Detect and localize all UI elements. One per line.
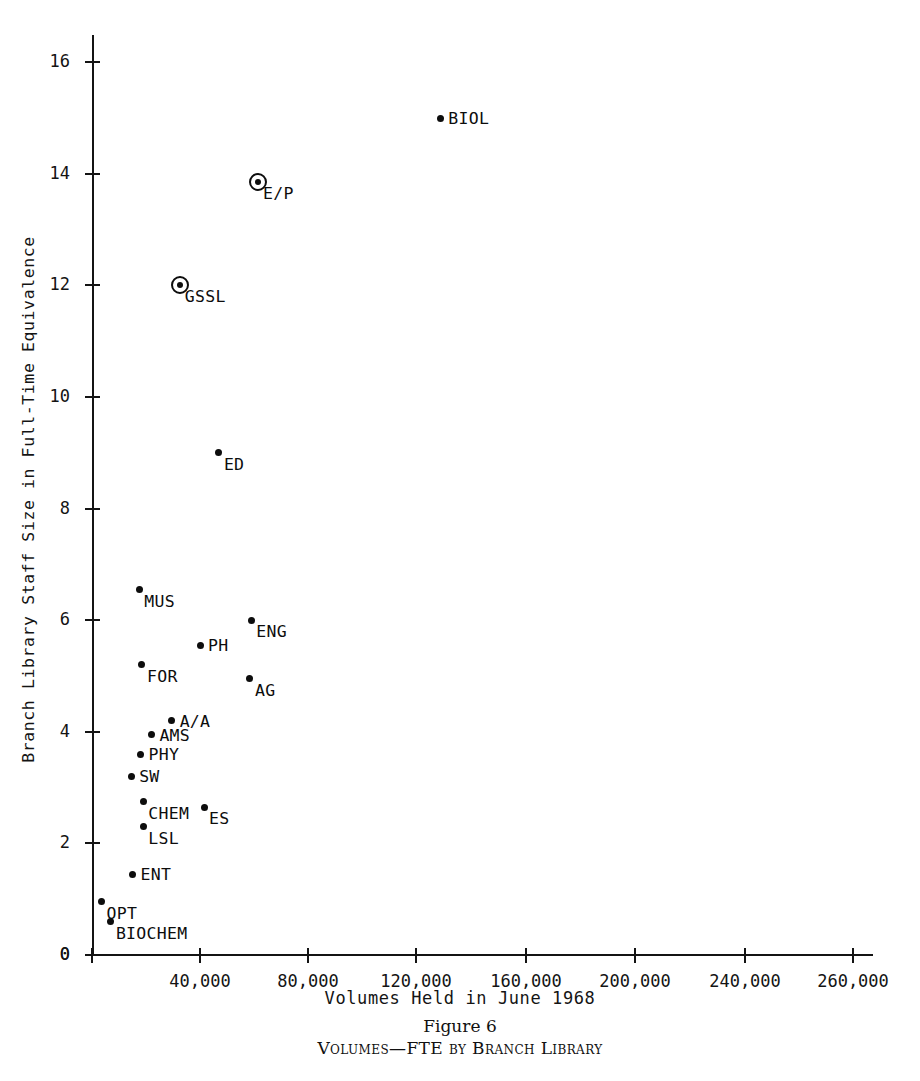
point-marker bbox=[136, 586, 143, 593]
figure-number: Figure 6 bbox=[0, 1016, 920, 1037]
scatter-plot-area: 0246810121416040,00080,000120,000160,000… bbox=[92, 35, 873, 955]
point-label: E/P bbox=[263, 186, 294, 203]
point-marker bbox=[168, 717, 175, 724]
point-label: PHY bbox=[149, 747, 180, 764]
point-marker bbox=[140, 823, 147, 830]
point-label: ED bbox=[224, 457, 244, 474]
point-label: FOR bbox=[147, 669, 178, 686]
point-label: GSSL bbox=[185, 289, 226, 306]
y-axis-tick-label: 16 bbox=[30, 53, 70, 70]
point-marker bbox=[129, 871, 136, 878]
point-marker bbox=[215, 449, 222, 456]
y-axis-title: Branch Library Staff Size in Full-Time E… bbox=[19, 180, 38, 820]
point-label: AG bbox=[255, 683, 275, 700]
point-label: MUS bbox=[144, 594, 175, 611]
point-label: BIOCHEM bbox=[116, 926, 188, 943]
point-marker bbox=[98, 898, 105, 905]
point-label: ES bbox=[209, 811, 229, 828]
x-axis-tick-label: 0 bbox=[30, 946, 70, 963]
y-axis-line bbox=[92, 35, 94, 956]
point-label: ENT bbox=[141, 867, 172, 884]
figure-caption: Figure 6 Volumes—FTE by Branch Library bbox=[0, 1016, 920, 1059]
point-label: LSL bbox=[148, 831, 179, 848]
point-label: AMS bbox=[159, 728, 190, 745]
point-marker bbox=[437, 115, 444, 122]
point-marker bbox=[140, 798, 147, 805]
point-marker bbox=[137, 751, 144, 758]
figure-volumes-fte-scatter: 0246810121416040,00080,000120,000160,000… bbox=[0, 0, 920, 1081]
point-marker bbox=[246, 675, 253, 682]
point-marker bbox=[128, 773, 135, 780]
point-marker bbox=[248, 617, 255, 624]
figure-title: Volumes—FTE by Branch Library bbox=[0, 1037, 920, 1059]
point-marker bbox=[107, 918, 114, 925]
point-marker bbox=[201, 804, 208, 811]
point-marker bbox=[197, 642, 204, 649]
x-axis-title: Volumes Held in June 1968 bbox=[0, 988, 920, 1008]
point-label: ENG bbox=[256, 624, 287, 641]
point-marker bbox=[148, 731, 155, 738]
point-label: PH bbox=[208, 638, 228, 655]
point-label: SW bbox=[139, 769, 159, 786]
x-axis-line bbox=[92, 954, 873, 956]
point-label: CHEM bbox=[148, 806, 189, 823]
point-marker bbox=[138, 661, 145, 668]
point-label: BIOL bbox=[448, 111, 489, 128]
y-axis-tick-label: 2 bbox=[30, 834, 70, 851]
